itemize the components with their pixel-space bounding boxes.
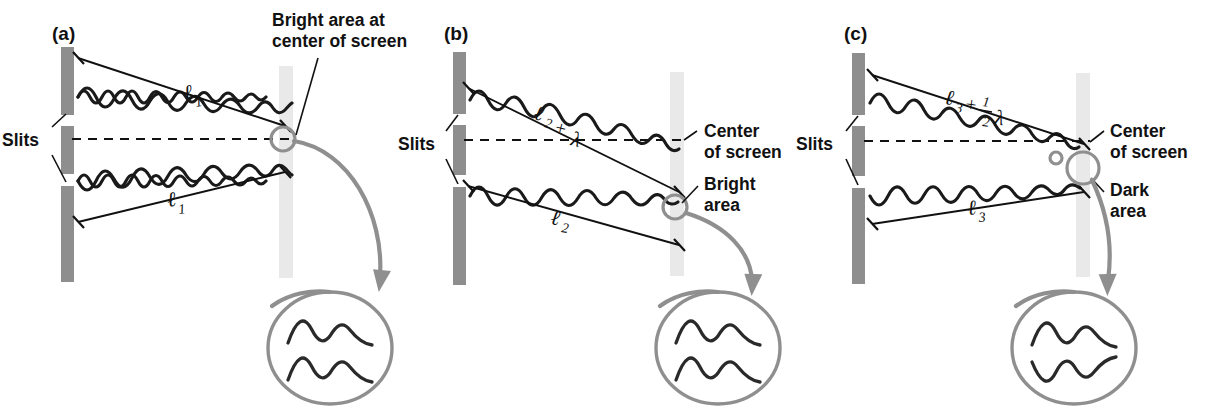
inset-a: [268, 291, 392, 404]
area-note-leader-b: [682, 186, 698, 203]
area-note-c-line2: area: [1110, 201, 1146, 221]
center-note-leader-b: [684, 131, 697, 140]
area-note-b-line2: area: [704, 195, 740, 215]
screen-note-a-line2: center of screen: [272, 31, 407, 51]
inset-wave-top-b: [676, 321, 760, 345]
path-label-upper-a-sub: 1: [194, 94, 204, 110]
center-note-c-line2: of screen: [1110, 142, 1188, 162]
cancellation-node-c: [1050, 152, 1062, 164]
path-label-lower-c-sub: 3: [977, 209, 986, 225]
center-note-leader-c: [1090, 131, 1104, 142]
path-label-lower-a: ℓ 1: [165, 187, 186, 217]
path-label-upper-c-base: ℓ: [943, 85, 955, 110]
path-label-upper-a-base: ℓ: [181, 80, 194, 105]
slits-leader-upper-a: [52, 114, 66, 127]
center-note-b-line1: Center: [704, 121, 760, 141]
path-label-upper-c-lambda: λ: [992, 105, 1005, 130]
screen-c: [1076, 73, 1090, 277]
panel-a: (a): [0, 0, 400, 419]
barrier-b: [453, 52, 466, 285]
path-label-upper-c-op: +: [964, 93, 978, 115]
inset-c: [1012, 291, 1136, 404]
slits-label-a: Slits: [2, 130, 39, 150]
center-note-c-line1: Center: [1110, 121, 1166, 141]
inset-wave-top-a: [288, 321, 372, 345]
screen-note-leader-a: [296, 58, 318, 135]
panel-c-tag: (c): [844, 23, 867, 44]
inset-wave-bottom-b: [676, 358, 760, 382]
double-slit-interference-figure: (a): [0, 0, 1208, 419]
area-note-c-line1: Dark: [1110, 180, 1149, 200]
path-label-lower-b-sub: 2: [561, 220, 570, 236]
path-label-upper-c-frac-den: 2: [982, 114, 991, 130]
callout-arrow-a: [294, 141, 391, 293]
path-label-lower-a-base: ℓ: [165, 187, 177, 212]
panel-c: (c) ℓ 3 +: [792, 0, 1208, 419]
path-label-lower-a-sub: 1: [177, 201, 186, 217]
panel-b-tag: (b): [444, 23, 468, 44]
slits-label-c: Slits: [796, 134, 833, 154]
barrier-c: [852, 53, 865, 284]
path-label-lower-c-base: ℓ: [966, 195, 977, 220]
inset-wave-top-c: [1032, 323, 1116, 347]
path-label-upper-c-frac-num: 1: [982, 94, 991, 110]
path-label-lower-b: ℓ 2: [549, 205, 570, 236]
area-note-b-line1: Bright: [704, 174, 756, 194]
panel-b: (b) ℓ 2 + λ: [398, 0, 798, 419]
inset-wave-bottom-c: [1032, 357, 1116, 381]
barrier-a: [61, 47, 74, 282]
center-note-b-line2: of screen: [704, 142, 782, 162]
center-note-c: Center of screen: [1090, 121, 1188, 162]
slits-label-b: Slits: [398, 134, 435, 154]
path-dimension-upper-c: [867, 69, 1090, 150]
area-note-b: Bright area: [682, 174, 756, 215]
inset-wave-bottom-a: [288, 358, 372, 382]
panel-a-tag: (a): [52, 23, 75, 44]
callout-arrow-b: [686, 213, 762, 296]
inset-b: [656, 291, 780, 404]
path-label-upper-b-base: ℓ: [532, 101, 547, 126]
screen-note-a-line1: Bright area at: [272, 10, 385, 30]
center-note-b: Center of screen: [684, 121, 782, 162]
path-dimension-lower-b: [463, 180, 685, 251]
